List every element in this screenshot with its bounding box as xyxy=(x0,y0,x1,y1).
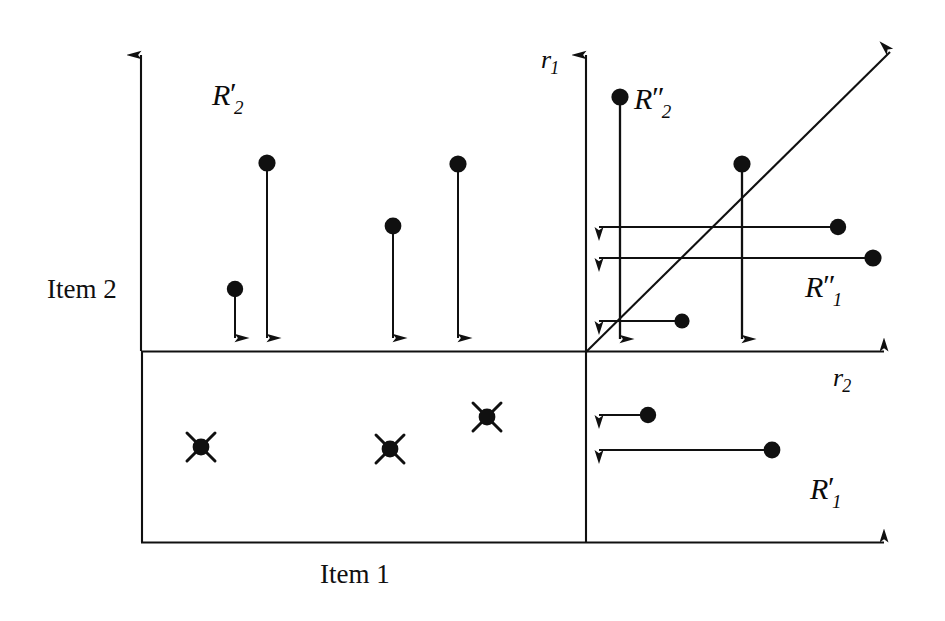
data-point-dot xyxy=(674,313,689,328)
data-point-dot xyxy=(733,155,750,172)
data-point-dot xyxy=(864,249,881,266)
data-point-dot xyxy=(227,281,243,297)
data-point-dot xyxy=(611,88,628,105)
figure-canvas: R′2 R″2 R″1 R′1 Item 2 Item 1 r1 r2 xyxy=(0,0,945,621)
r2-axis-label: r2 xyxy=(833,365,852,391)
identity-diagonal-line xyxy=(586,52,890,352)
item-1-axis-label: Item 1 xyxy=(320,561,390,588)
data-point-dot xyxy=(764,442,781,459)
data-point-dot xyxy=(449,155,466,172)
region-label-r2-double-prime: R″2 xyxy=(634,84,674,116)
data-point-dot xyxy=(385,218,402,235)
region-label-r1-double-prime: R″1 xyxy=(805,272,845,304)
region-label-r1-prime: R′1 xyxy=(810,474,844,506)
cross-point-3 xyxy=(473,403,501,431)
r1-axis-label: r1 xyxy=(541,47,560,73)
diagram-svg xyxy=(0,0,945,621)
region-label-r2-prime: R′2 xyxy=(212,80,246,112)
data-point-dot xyxy=(640,407,656,423)
data-point-dot xyxy=(258,154,275,171)
data-point-dot xyxy=(830,219,846,235)
item-2-axis-label: Item 2 xyxy=(47,276,117,303)
cross-point-2 xyxy=(376,435,404,463)
cross-point-1 xyxy=(187,433,215,461)
